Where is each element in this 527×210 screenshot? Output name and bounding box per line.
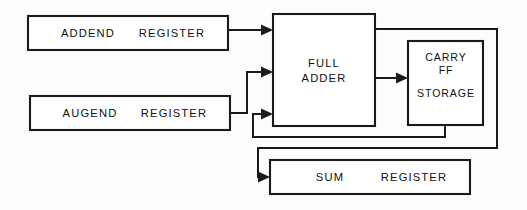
addend-register-label-primary: ADDEND xyxy=(61,27,115,39)
box-sum-register: SUM REGISTER xyxy=(270,160,470,194)
box-carry-ff-storage: CARRY FF STORAGE xyxy=(408,41,483,125)
addend-register-label-secondary: REGISTER xyxy=(139,27,205,39)
sum-register-label-secondary: REGISTER xyxy=(381,171,447,183)
arrowhead-adder-sum-out xyxy=(258,172,270,183)
arrowhead-carry-feedback-to-adder xyxy=(261,109,273,120)
arrowhead-adder-carry-out xyxy=(396,73,408,84)
block-diagram: ADDEND REGISTER AUGEND REGISTER FULL ADD… xyxy=(0,0,527,210)
carry-ff-storage-label-line1: CARRY xyxy=(425,51,466,63)
sum-register-label-primary: SUM xyxy=(316,171,344,183)
arrowhead-addend-to-adder xyxy=(261,25,273,36)
carry-ff-storage-label-line2: FF xyxy=(439,64,454,76)
augend-register-label-secondary: REGISTER xyxy=(141,107,207,119)
box-augend-register: AUGEND REGISTER xyxy=(30,96,230,130)
full-adder-outline xyxy=(273,14,375,126)
connection-adder-carry-out-to-carry-ff xyxy=(375,73,408,84)
carry-ff-storage-label-line3: STORAGE xyxy=(417,87,475,99)
box-full-adder: FULL ADDER xyxy=(273,14,375,126)
augend-register-label-primary: AUGEND xyxy=(63,107,118,119)
diagram-canvas: ADDEND REGISTER AUGEND REGISTER FULL ADD… xyxy=(0,0,527,210)
connection-addend-to-adder xyxy=(228,25,273,36)
full-adder-label-line1: FULL xyxy=(308,57,340,69)
connection-augend-to-adder xyxy=(230,67,273,114)
box-addend-register: ADDEND REGISTER xyxy=(28,16,228,50)
arrowhead-augend-to-adder xyxy=(261,67,273,78)
wire-augend-to-adder xyxy=(230,72,271,113)
full-adder-label-line2: ADDER xyxy=(302,72,347,84)
